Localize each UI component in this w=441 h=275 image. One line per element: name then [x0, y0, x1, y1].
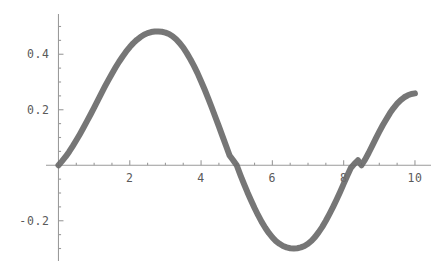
- chart-svg: 246810-0.20.20.4: [0, 0, 441, 275]
- x-axis-tick-label: 10: [407, 171, 422, 185]
- y-axis-tick-label: 0.2: [27, 103, 50, 117]
- y-axis-tick-label: -0.2: [19, 214, 49, 228]
- y-axis-tick-label: 0.4: [27, 47, 50, 61]
- x-axis-tick-label: 4: [197, 171, 205, 185]
- x-axis-tick-label: 6: [269, 171, 277, 185]
- plot-canvas: 246810-0.20.20.4: [0, 0, 441, 275]
- x-axis-tick-label: 2: [126, 171, 134, 185]
